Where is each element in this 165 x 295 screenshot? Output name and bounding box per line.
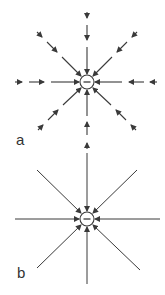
panel-b-negative-charge: [80, 212, 94, 226]
panel-a-label: a: [16, 131, 24, 148]
panel-a-negative-charge: [80, 75, 94, 89]
field-diagram: [0, 0, 165, 295]
panel-b-label: b: [17, 264, 25, 281]
